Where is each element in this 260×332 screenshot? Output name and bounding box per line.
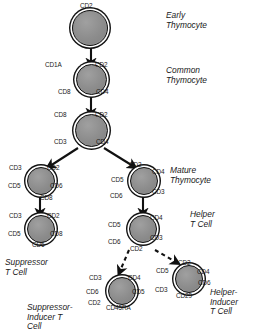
marker-label-mature-cd4-cd2: CD2 (129, 161, 142, 168)
marker-label-helper-inducer-cd6: CD6 (198, 279, 211, 286)
marker-label-helper-cd5: CD5 (108, 221, 121, 228)
marker-label-mature-cd4-cd3: CD3 (152, 188, 165, 195)
marker-label-helper-inducer-cd29: CD29 (176, 292, 192, 299)
marker-label-mature-cd8-cd8: CD8 (40, 194, 53, 201)
marker-label-suppressor-cd2: CD2 (47, 212, 60, 219)
marker-label-early-cd2: CD2 (80, 2, 93, 9)
marker-label-common-cd2: CD2 (95, 61, 108, 68)
stage-label-mature-thymocyte: Mature Thymocyte (170, 166, 211, 185)
marker-label-intermediate-cd3: CD3 (54, 138, 67, 145)
marker-label-mature-cd4-cd4: CD4 (152, 168, 165, 175)
marker-label-suppressor-cd5: CD5 (8, 230, 21, 237)
marker-label-helper-cd3: CD3 (150, 234, 163, 241)
marker-label-mature-cd8-cd2: CD2 (47, 164, 60, 171)
marker-label-common-cd1a: CD1A (45, 61, 62, 68)
marker-label-helper-inducer-cd5: CD5 (156, 267, 169, 274)
marker-label-suppressor-inducer-cd6: CD6 (86, 288, 99, 295)
marker-label-common-cd8: CD8 (58, 88, 71, 95)
marker-label-suppressor-inducer-cd5: CD5 (132, 288, 145, 295)
marker-label-mature-cd8-cd6: CD6 (50, 182, 63, 189)
t-cell-lineage-diagram: CD2 CD1A CD2 CD8 CD4 CD8 CD2 CD3 CD4 CD3… (0, 0, 260, 332)
marker-label-suppressor-inducer-cd3: CD3 (89, 274, 102, 281)
marker-label-suppressor-cd8: CD8 (50, 230, 63, 237)
stage-label-helper-inducer-t-cell: Helper- Inducer T Cell (210, 288, 238, 317)
cell-suppressor-t-cell[interactable] (27, 215, 55, 243)
cell-body (110, 279, 134, 303)
stage-label-suppressor-t-cell: Suppressor T Cell (5, 258, 48, 277)
marker-label-intermediate-cd8: CD8 (54, 111, 67, 118)
marker-label-common-cd4: CD4 (96, 88, 109, 95)
stage-label-suppressor-inducer-t-cell: Suppressor- Inducer T Cell (27, 303, 72, 332)
marker-label-mature-cd4-cd5: CD5 (111, 176, 124, 183)
marker-label-suppressor-inducer-cd45ra: CD45RA (106, 304, 131, 311)
marker-label-suppressor-inducer-cd2: CD2 (88, 299, 101, 306)
marker-label-mature-cd8-cd3: CD3 (9, 164, 22, 171)
stage-label-common-thymocyte: Common Thymocyte (166, 66, 207, 85)
stage-label-early-thymocyte: Early Thymocyte (166, 11, 207, 30)
cell-early-thymocyte[interactable] (72, 10, 108, 46)
marker-label-mature-cd4-cd6: CD6 (110, 192, 123, 199)
marker-label-helper-inducer-cd4: CD4 (197, 268, 210, 275)
marker-label-helper-inducer-cd2: CD2 (178, 259, 191, 266)
marker-label-intermediate-cd2: CD2 (95, 111, 108, 118)
arrow-helper-to-helper-inducer (155, 250, 176, 262)
cell-mature-thymocyte-cd8[interactable] (27, 167, 55, 195)
marker-label-helper-cd4: CD4 (150, 214, 163, 221)
marker-label-helper-inducer-cd3: CD3 (155, 286, 168, 293)
cell-body (29, 217, 53, 241)
marker-label-mature-cd8-cd5: CD5 (8, 182, 21, 189)
marker-label-suppressor-inducer-cd4: CD4 (128, 274, 141, 281)
marker-label-suppressor-cd3: CD3 (9, 212, 22, 219)
marker-label-helper-cd2: CD2 (130, 245, 143, 252)
marker-label-helper-cd6: CD6 (108, 238, 121, 245)
marker-label-suppressor-cd6: CD6 (32, 241, 45, 248)
arrow-helper-to-suppressor-inducer (120, 250, 129, 271)
stage-label-helper-t-cell: Helper T Cell (190, 210, 215, 229)
marker-label-intermediate-cd4: CD4 (96, 138, 109, 145)
cell-body (29, 169, 53, 193)
cell-body (74, 12, 106, 44)
